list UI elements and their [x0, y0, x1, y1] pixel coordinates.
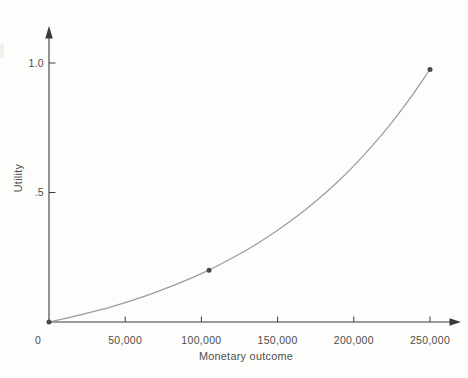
y-axis-arrowhead-icon [45, 26, 53, 39]
x-tick-label: 50,000 [108, 334, 142, 346]
x-axis-title: Monetary outcome [199, 350, 293, 362]
y-axis-title: Utility [12, 163, 24, 192]
data-point [47, 320, 52, 325]
x-tick-label: 200,000 [334, 334, 374, 346]
x-tick-label: 100,000 [181, 334, 221, 346]
points-layer [47, 67, 433, 325]
axes-layer [45, 26, 461, 326]
curve-layer [49, 70, 430, 323]
x-tick-label: 0 [35, 334, 41, 346]
x-tick-label: 250,000 [410, 334, 450, 346]
x-tick-label: 150,000 [258, 334, 298, 346]
scan-artifact [0, 44, 4, 58]
y-tick-label: .5 [35, 186, 44, 198]
y-tick-label: 1.0 [29, 57, 45, 69]
data-point [428, 67, 433, 72]
utility-curve-path [49, 70, 430, 323]
ticks-layer: 050,000100,000150,000200,000250,000.51.0 [29, 57, 451, 347]
x-axis-arrowhead-icon [450, 318, 462, 325]
utility-chart-canvas: 050,000100,000150,000200,000250,000.51.0… [0, 0, 468, 378]
data-point [207, 268, 212, 273]
utility-curve-figure: 050,000100,000150,000200,000250,000.51.0… [0, 0, 468, 378]
